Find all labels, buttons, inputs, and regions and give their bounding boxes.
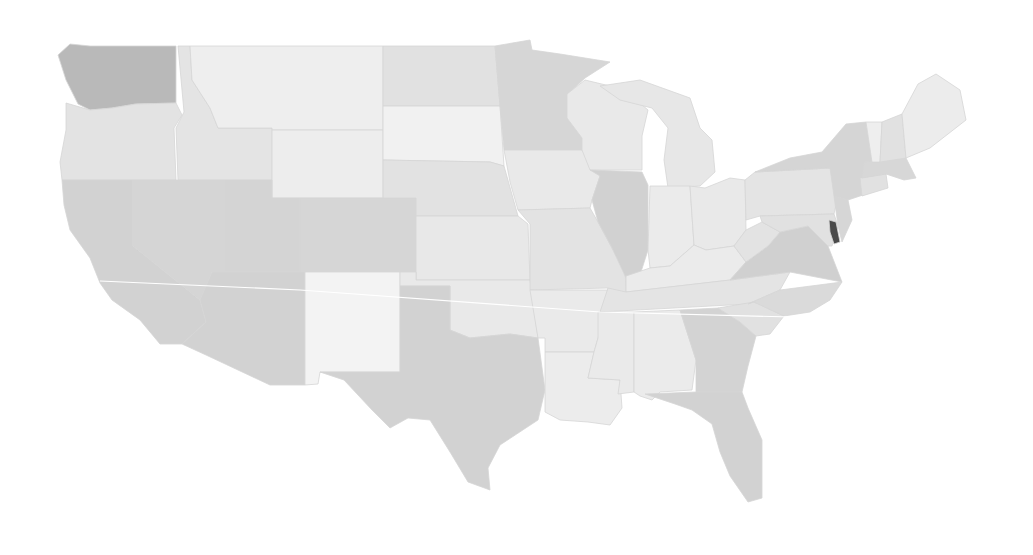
state-mt[interactable] xyxy=(190,46,383,130)
state-ks[interactable] xyxy=(416,216,530,280)
choropleth-map xyxy=(0,0,1033,555)
states-layer xyxy=(58,40,966,502)
state-pa[interactable] xyxy=(745,168,840,220)
state-oh[interactable] xyxy=(690,178,746,250)
state-nh[interactable] xyxy=(880,114,906,162)
state-fl[interactable] xyxy=(645,392,762,502)
us-states-map xyxy=(0,0,1033,555)
state-nd[interactable] xyxy=(383,46,500,106)
state-ma[interactable] xyxy=(862,158,916,180)
state-co[interactable] xyxy=(300,198,416,272)
state-wy[interactable] xyxy=(272,130,383,198)
state-or[interactable] xyxy=(60,103,182,180)
state-nm[interactable] xyxy=(305,272,400,385)
state-me[interactable] xyxy=(902,74,966,158)
state-sd[interactable] xyxy=(383,106,504,166)
state-wa[interactable] xyxy=(58,44,176,110)
